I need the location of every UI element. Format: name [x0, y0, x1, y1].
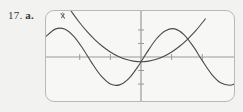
exercise-number: 17.: [8, 9, 22, 21]
axes-group: [46, 11, 235, 102]
exercise-figure-page: 17.a.: [0, 0, 243, 112]
graphing-calculator-screen: [45, 10, 235, 102]
exercise-part-letter: a.: [25, 9, 34, 21]
curve-parabola: [46, 11, 205, 62]
exercise-label: 17.a.: [8, 9, 34, 21]
plot-canvas: [46, 11, 235, 102]
